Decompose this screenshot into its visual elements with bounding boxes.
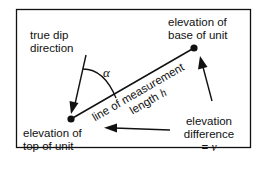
elevation-diff-label-line3: = v (201, 141, 217, 153)
top-of-unit-label-line2: top of unit (23, 140, 74, 152)
alpha-symbol: α (103, 65, 111, 80)
angle-arc (83, 69, 116, 98)
true-dip-arrow-icon (70, 55, 87, 114)
elevation-diff-arrow-left-icon (104, 124, 170, 133)
top-of-unit-point (67, 115, 74, 122)
true-dip-label: true dip (30, 29, 68, 41)
dip-geometry-diagram: true dip direction elevation of base of … (0, 0, 262, 174)
true-dip-label-line2: direction (30, 42, 73, 54)
elevation-diff-arrow-up-icon (198, 56, 212, 101)
base-of-unit-label: elevation of (168, 16, 228, 28)
base-of-unit-point (190, 44, 197, 51)
elevation-diff-label: elevation (186, 115, 232, 127)
top-of-unit-label: elevation of (23, 127, 83, 139)
elevation-diff-label-line2: difference (184, 128, 234, 140)
base-of-unit-label-line2: base of unit (168, 29, 228, 41)
v-symbol: v (211, 141, 217, 153)
